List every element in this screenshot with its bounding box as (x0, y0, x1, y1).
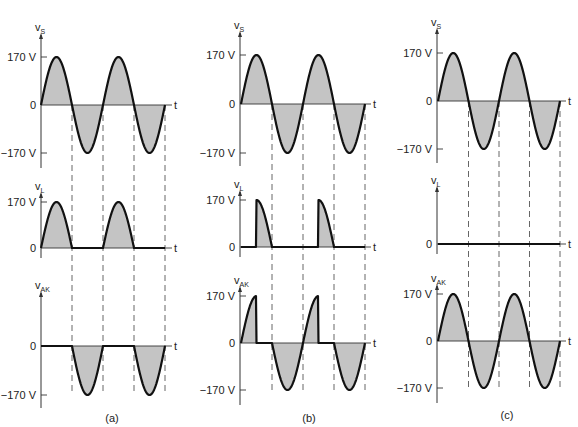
plot-vAK: vAKt170 V0−170 V (397, 272, 571, 403)
vL-axis-label: vL (35, 180, 45, 194)
time-axis-label: t (568, 335, 571, 347)
tick-label: 0 (30, 340, 36, 352)
plot-vL: vLt0 (426, 174, 571, 254)
tick-label: 0 (229, 337, 235, 349)
tick-label: −170 V (1, 389, 37, 401)
panel-a: vSt170 V0−170 VvLt170 V0vAKt0−170 V(a) (1, 21, 177, 424)
tick-label: 170 V (403, 288, 432, 300)
time-axis-label: t (174, 242, 177, 254)
plot-vL: vLt170 V0 (206, 178, 376, 257)
tick-label: 0 (229, 98, 235, 110)
tick-label: 0 (426, 238, 432, 250)
time-axis-label: t (373, 337, 376, 349)
tick-label: −170 V (200, 384, 236, 396)
tick-label: 0 (426, 95, 432, 107)
tick-label: 170 V (7, 51, 36, 63)
vAK-axis-label: vAK (35, 279, 50, 293)
panel-b: vSt170 V0−170 VvLt170 V0vAKt170 V0−170 V… (200, 19, 376, 424)
vAK-axis-label: vAK (431, 272, 446, 286)
time-axis-label: t (174, 340, 177, 352)
tick-label: 0 (229, 241, 235, 253)
plot-vs: vSt170 V0−170 V (200, 19, 376, 166)
tick-label: −170 V (200, 147, 236, 159)
time-axis-label: t (373, 241, 376, 253)
vs-axis-label: vS (234, 19, 245, 33)
panel-caption: (a) (105, 412, 118, 424)
panel-caption: (c) (501, 409, 514, 421)
vL-axis-label: vL (234, 178, 244, 192)
time-axis-label: t (373, 98, 376, 110)
tick-label: 170 V (7, 196, 36, 208)
tick-label: −170 V (397, 143, 433, 155)
plot-vAK: vAKt170 V0−170 V (200, 274, 376, 405)
tick-label: 170 V (206, 290, 235, 302)
vAK-axis-label: vAK (234, 274, 249, 288)
tick-label: 0 (30, 242, 36, 254)
vs-axis-label: vS (431, 16, 442, 30)
plot-vs: vSt170 V0−170 V (1, 21, 177, 168)
tick-label: 170 V (403, 47, 432, 59)
plot-vs: vSt170 V0−170 V (397, 16, 571, 163)
time-axis-label: t (568, 95, 571, 107)
time-axis-label: t (174, 99, 177, 111)
vs-axis-label: vS (35, 21, 46, 35)
tick-label: −170 V (1, 147, 37, 159)
plot-vL: vLt170 V0 (7, 180, 177, 258)
tick-label: 170 V (206, 49, 235, 61)
tick-label: 0 (30, 99, 36, 111)
time-axis-label: t (568, 238, 571, 250)
tick-label: −170 V (397, 382, 433, 394)
vL-axis-label: vL (431, 174, 441, 188)
tick-label: 0 (426, 335, 432, 347)
tick-label: 170 V (206, 194, 235, 206)
panel-c: vSt170 V0−170 VvLt0vAKt170 V0−170 V(c) (397, 16, 571, 421)
thyristor-waveform-diagram: vSt170 V0−170 VvLt170 V0vAKt0−170 V(a)vS… (0, 0, 578, 427)
panel-caption: (b) (302, 412, 315, 424)
plot-vAK: vAKt0−170 V (1, 279, 177, 408)
